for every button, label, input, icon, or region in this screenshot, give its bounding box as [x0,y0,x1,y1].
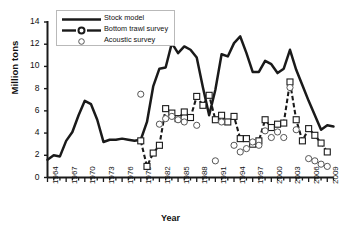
series-stock-model [48,36,334,159]
solid-line-swatch-icon [61,14,102,25]
dashed-circle-swatch-icon [61,25,102,36]
legend-label-acoustic-survey: Acoustic survey [104,35,155,44]
data-series-group [48,36,334,169]
series-bottom-trawl-survey [138,79,331,169]
figure-chart: Million tons Year 02468101214 1964196719… [0,0,341,230]
open-circle-swatch-icon [61,36,102,47]
legend-label-stock-model: Stock model [104,13,144,22]
chart-legend: Stock model Bottom trawl survey Acoustic… [56,10,175,46]
series-acoustic-survey [138,84,331,169]
legend-label-bottom-trawl-survey: Bottom trawl survey [104,24,168,33]
legend-item-acoustic-survey: Acoustic survey [57,36,174,47]
